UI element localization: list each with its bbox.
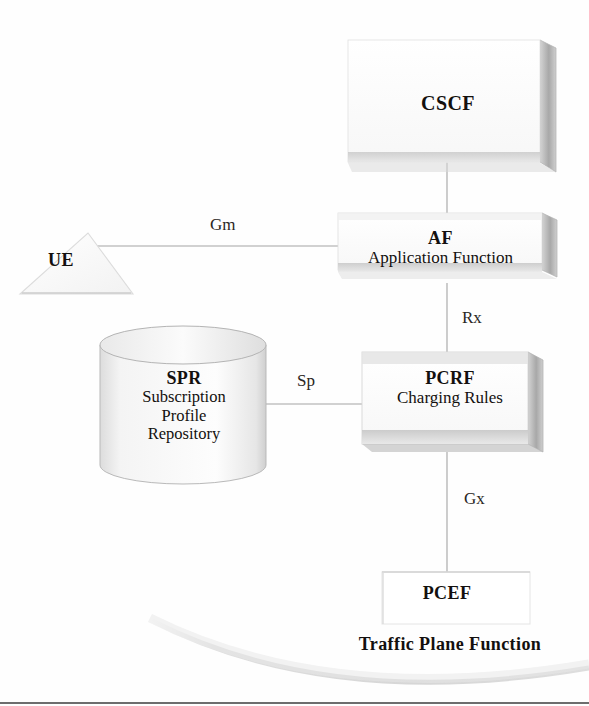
cscf-bottom-bevel bbox=[348, 163, 556, 172]
pcrf-side-face bbox=[528, 352, 543, 452]
af-top-highlight bbox=[338, 213, 542, 220]
traffic-plane-arc-soft bbox=[150, 618, 589, 678]
pcrf-bottom-shadow bbox=[362, 444, 543, 452]
af-front-face bbox=[338, 213, 542, 270]
node-spr[interactable] bbox=[100, 326, 266, 484]
interface-label-sp: Sp bbox=[297, 371, 315, 391]
node-cscf[interactable] bbox=[348, 40, 556, 172]
interface-label-gm: Gm bbox=[210, 215, 236, 235]
interface-label-gx: Gx bbox=[464, 489, 485, 509]
pcrf-bottom-bevel bbox=[362, 430, 528, 444]
spr-body bbox=[100, 345, 266, 484]
af-bottom-shadow bbox=[338, 263, 542, 272]
cscf-side-face bbox=[540, 40, 556, 172]
node-af[interactable] bbox=[338, 213, 557, 279]
af-side-face bbox=[542, 213, 557, 277]
traffic-plane-region bbox=[150, 618, 589, 682]
node-pcrf[interactable] bbox=[362, 352, 543, 452]
pcc-architecture-diagram: CSCF AF Application Function PCRF Chargi… bbox=[0, 0, 589, 706]
cscf-bottom-shadow bbox=[348, 152, 540, 163]
spr-top-ellipse bbox=[100, 326, 266, 364]
pcrf-top-bevel bbox=[362, 352, 528, 364]
af-bottom-bevel bbox=[338, 272, 557, 279]
node-ue[interactable] bbox=[20, 233, 133, 294]
ue-triangle bbox=[20, 233, 133, 294]
diagram-canvas bbox=[0, 0, 589, 706]
pcef-front-face bbox=[382, 572, 530, 624]
node-pcef[interactable] bbox=[382, 572, 530, 624]
cscf-front-face bbox=[348, 40, 540, 162]
interface-label-rx: Rx bbox=[462, 308, 482, 328]
